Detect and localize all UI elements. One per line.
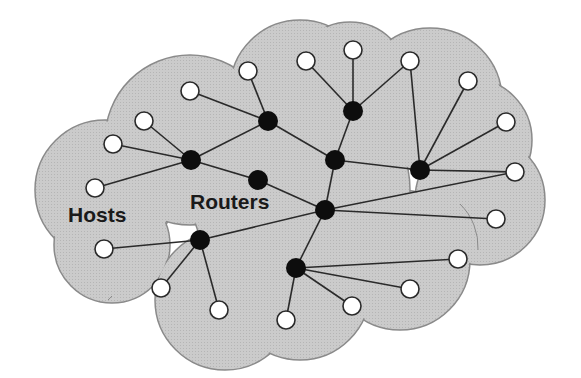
host-node-icon xyxy=(297,52,315,70)
host-node-icon xyxy=(401,280,419,298)
host-node-icon xyxy=(135,112,153,130)
host-node-icon xyxy=(86,179,104,197)
host-node-icon xyxy=(181,82,199,100)
router-node-icon xyxy=(248,170,268,190)
network-diagram: Hosts Routers xyxy=(0,0,581,378)
host-node-icon xyxy=(344,41,362,59)
router-node-icon xyxy=(286,258,306,278)
router-node-icon xyxy=(258,111,278,131)
host-node-icon xyxy=(506,163,524,181)
host-node-icon xyxy=(210,301,228,319)
router-node-icon xyxy=(190,230,210,250)
host-node-icon xyxy=(459,72,477,90)
routers-label: Routers xyxy=(190,190,269,213)
hosts-label: Hosts xyxy=(68,203,126,226)
router-node-icon xyxy=(181,150,201,170)
host-node-icon xyxy=(239,62,257,80)
host-node-icon xyxy=(449,250,467,268)
router-node-icon xyxy=(410,160,430,180)
router-node-icon xyxy=(315,200,335,220)
host-node-icon xyxy=(343,297,361,315)
host-node-icon xyxy=(152,279,170,297)
host-node-icon xyxy=(487,210,505,228)
host-node-icon xyxy=(277,311,295,329)
router-node-icon xyxy=(325,150,345,170)
host-node-icon xyxy=(95,240,113,258)
host-node-icon xyxy=(104,135,122,153)
host-node-icon xyxy=(497,113,515,131)
host-node-icon xyxy=(401,52,419,70)
router-node-icon xyxy=(343,101,363,121)
